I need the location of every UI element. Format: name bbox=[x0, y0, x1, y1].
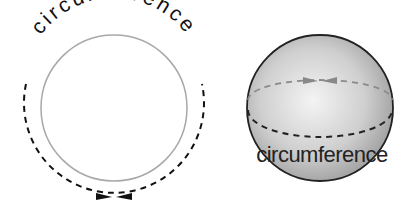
flat-circle-figure: circumference bbox=[24, 0, 204, 200]
circle bbox=[41, 35, 187, 181]
arrowhead-left-icon bbox=[96, 193, 112, 200]
sphere-figure: circumference bbox=[247, 35, 393, 181]
diagram: circumference circumference bbox=[0, 0, 408, 202]
dashed-circumference-arc bbox=[24, 84, 204, 193]
circumference-label-curved: circumference bbox=[26, 0, 202, 38]
circumference-label: circumference bbox=[256, 142, 388, 167]
arrowhead-right-icon bbox=[116, 193, 132, 200]
